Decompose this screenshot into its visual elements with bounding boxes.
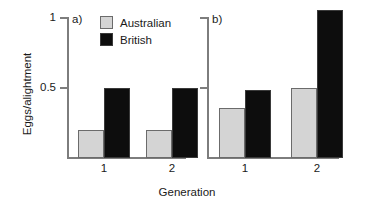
legend-label-british: British (120, 34, 152, 46)
panel-b-ytick-0-5 (200, 87, 207, 89)
panel-a-ytick-label-0-5: 0.5 (14, 81, 56, 93)
panel-b: b) 1 2 (190, 0, 374, 210)
bar-panel-b-gen1-british (245, 90, 271, 158)
x-axis-title: Generation (0, 186, 374, 198)
panel-a-tag: a) (72, 13, 82, 25)
panel-a-xtick-label-1: 1 (94, 162, 114, 174)
bar-panel-a-gen1-australian (78, 130, 104, 158)
figure-bar-chart: Eggs/alightment a) 1 0.5 1 2 Australian (0, 0, 374, 210)
panel-a: a) 1 0.5 1 2 Australian British (0, 0, 190, 210)
bar-panel-a-gen2-australian (146, 130, 172, 158)
bar-panel-a-gen1-british (104, 88, 130, 158)
panel-a-ytick-0-5 (60, 87, 67, 89)
panel-a-ytick-label-1: 1 (14, 11, 56, 23)
australian-swatch-icon (100, 16, 113, 29)
panel-a-xtick-label-2: 2 (162, 162, 182, 174)
panel-a-y-axis-line (67, 17, 69, 158)
panel-b-xtick-label-1: 1 (235, 162, 255, 174)
legend-label-australian: Australian (120, 17, 171, 29)
bar-panel-b-gen2-australian (291, 88, 317, 158)
panel-b-ytick-1 (200, 17, 207, 19)
legend-item-australian: Australian (100, 14, 171, 31)
bar-panel-b-gen2-british (317, 10, 343, 158)
panel-b-y-axis-line (207, 17, 209, 158)
legend-item-british: British (100, 31, 171, 48)
panel-b-xtick-label-2: 2 (307, 162, 327, 174)
british-swatch-icon (100, 33, 113, 46)
panel-a-ytick-1 (60, 17, 67, 19)
legend: Australian British (100, 14, 171, 48)
panel-b-tag: b) (212, 13, 222, 25)
bar-panel-b-gen1-australian (219, 108, 245, 158)
